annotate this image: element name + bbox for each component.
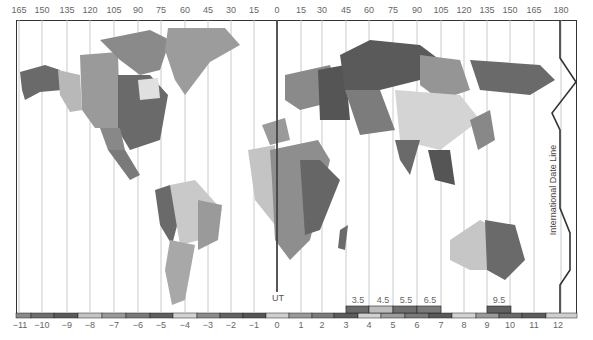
ut-label: UT xyxy=(271,293,285,303)
zone-offset-label: −1 xyxy=(249,320,259,330)
landmass-north-america xyxy=(20,30,170,180)
zone-offset-label: 10 xyxy=(505,320,515,330)
zone-offset-label: 8 xyxy=(461,320,466,330)
landmass-australia xyxy=(450,220,525,280)
zone-offset-label: −10 xyxy=(34,320,49,330)
half-hour-zone-label: 4.5 xyxy=(377,295,390,305)
zone-offset-label: 9 xyxy=(484,320,489,330)
zone-offset-label: −6 xyxy=(133,320,143,330)
half-hour-zone-label: 3.5 xyxy=(352,295,365,305)
zone-offset-label: 2 xyxy=(319,320,324,330)
landmass-south-america xyxy=(155,180,222,305)
zone-offset-label: −5 xyxy=(156,320,166,330)
world-map xyxy=(0,0,593,340)
international-date-line-label: International Date Line xyxy=(548,145,558,236)
zone-offset-label: −7 xyxy=(109,320,119,330)
landmass-greenland xyxy=(165,28,240,95)
zone-offset-label: 5 xyxy=(390,320,395,330)
zone-offset-label: 6 xyxy=(414,320,419,330)
zone-offset-label: −3 xyxy=(203,320,213,330)
landmass-africa xyxy=(248,140,348,260)
half-hour-zone-label: 5.5 xyxy=(400,295,413,305)
zone-offset-label: 1 xyxy=(298,320,303,330)
zone-offset-label: −4 xyxy=(180,320,190,330)
zone-offset-label: 4 xyxy=(366,320,371,330)
zone-offset-label: −8 xyxy=(85,320,95,330)
zone-offset-label: 11 xyxy=(529,320,538,330)
zone-offset-label: 12 xyxy=(553,320,563,330)
zone-offset-label: 7 xyxy=(438,320,443,330)
zone-offset-label: −9 xyxy=(62,320,72,330)
zone-offset-label: 3 xyxy=(343,320,348,330)
zone-offset-label: 0 xyxy=(274,320,279,330)
zone-offset-label: −2 xyxy=(226,320,236,330)
half-hour-zone-label: 6.5 xyxy=(424,295,437,305)
zone-offset-label: −11 xyxy=(13,320,28,330)
half-hour-zone-label: 9.5 xyxy=(493,295,506,305)
landmass-europe xyxy=(262,65,350,145)
landmass-asia xyxy=(340,40,555,185)
